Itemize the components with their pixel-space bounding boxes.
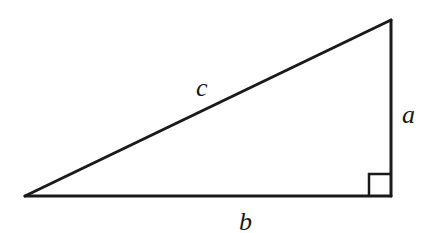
- right-triangle-diagram: c a b: [0, 0, 429, 233]
- hypotenuse-edge: [25, 20, 391, 196]
- vertical-leg-label: a: [402, 100, 415, 129]
- hypotenuse-label: c: [196, 73, 208, 102]
- right-angle-marker-icon: [369, 174, 391, 196]
- horizontal-leg-label: b: [239, 207, 252, 233]
